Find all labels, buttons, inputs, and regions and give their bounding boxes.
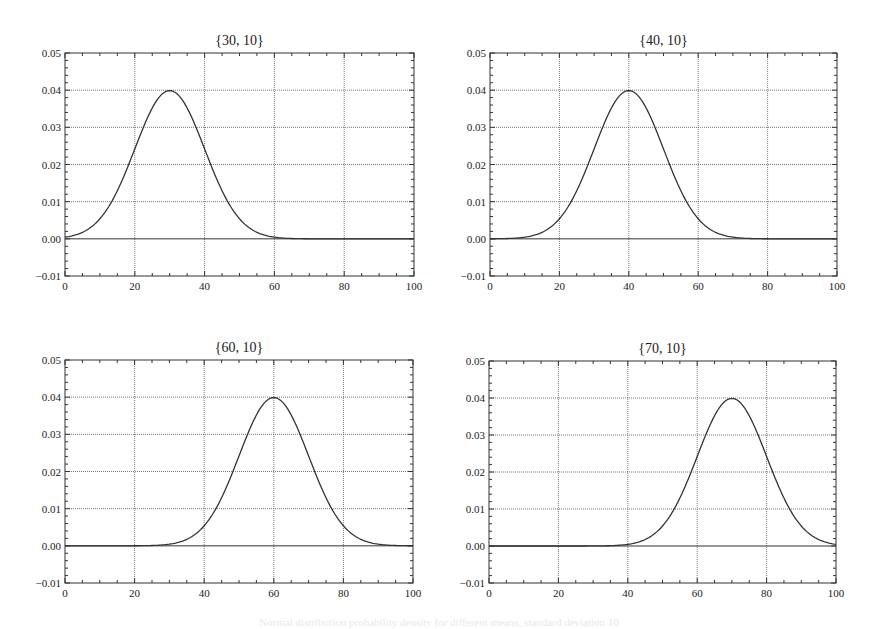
svg-text:100: 100	[828, 587, 845, 599]
chart-panel-3: {60, 10}020406080100−0.010.000.010.020.0…	[36, 340, 422, 599]
svg-text:20: 20	[554, 280, 566, 292]
y-tick-labels: −0.010.000.010.020.030.040.05	[36, 354, 62, 589]
svg-text:−0.01: −0.01	[460, 577, 485, 589]
y-tick-labels: −0.010.000.010.020.030.040.05	[461, 47, 487, 282]
svg-text:40: 40	[199, 280, 211, 292]
svg-text:0.04: 0.04	[42, 84, 62, 96]
svg-text:0.01: 0.01	[42, 503, 61, 515]
figure-canvas: {30, 10}020406080100−0.010.000.010.020.0…	[0, 0, 878, 629]
gridlines	[489, 361, 836, 583]
x-tick-labels: 020406080100	[486, 587, 845, 599]
svg-text:0: 0	[62, 587, 68, 599]
svg-text:40: 40	[199, 587, 211, 599]
svg-text:40: 40	[622, 587, 634, 599]
svg-text:0: 0	[486, 587, 492, 599]
x-tick-labels: 020406080100	[487, 280, 846, 292]
figure-caption: Normal distribution probability density …	[0, 616, 878, 628]
gridlines	[490, 53, 837, 276]
svg-text:0: 0	[487, 280, 493, 292]
chart-panel-2: {40, 10}020406080100−0.010.000.010.020.0…	[461, 33, 846, 292]
chart-title: {60, 10}	[215, 340, 263, 355]
svg-text:0.00: 0.00	[42, 233, 62, 245]
y-tick-labels: −0.010.000.010.020.030.040.05	[36, 47, 62, 282]
svg-text:0.03: 0.03	[42, 428, 62, 440]
gridlines	[65, 53, 414, 276]
y-tick-labels: −0.010.000.010.020.030.040.05	[460, 355, 486, 589]
svg-text:80: 80	[339, 280, 351, 292]
svg-text:0.03: 0.03	[467, 121, 487, 133]
svg-text:0.02: 0.02	[467, 159, 486, 171]
svg-text:0.01: 0.01	[466, 503, 485, 515]
x-tick-labels: 020406080100	[62, 587, 422, 599]
svg-text:0.02: 0.02	[466, 466, 485, 478]
svg-text:0.02: 0.02	[42, 466, 61, 478]
gridlines	[65, 360, 413, 583]
svg-text:0.00: 0.00	[466, 540, 486, 552]
svg-text:0.04: 0.04	[42, 391, 62, 403]
svg-text:0.01: 0.01	[467, 196, 486, 208]
svg-text:60: 60	[693, 280, 705, 292]
svg-text:60: 60	[692, 587, 704, 599]
svg-text:0.05: 0.05	[42, 47, 62, 59]
chart-panel-4: {70, 10}020406080100−0.010.000.010.020.0…	[460, 341, 845, 599]
svg-text:0.05: 0.05	[42, 354, 62, 366]
svg-text:−0.01: −0.01	[461, 270, 486, 282]
svg-text:0.04: 0.04	[467, 84, 487, 96]
svg-text:100: 100	[405, 587, 422, 599]
chart-title: {30, 10}	[215, 33, 263, 48]
chart-title: {70, 10}	[638, 341, 686, 356]
svg-text:0.05: 0.05	[466, 355, 486, 367]
svg-text:80: 80	[338, 587, 350, 599]
x-tick-labels: 020406080100	[62, 280, 423, 292]
svg-text:20: 20	[129, 280, 141, 292]
svg-text:0.03: 0.03	[466, 429, 486, 441]
svg-text:−0.01: −0.01	[36, 577, 61, 589]
svg-text:0.00: 0.00	[42, 540, 62, 552]
chart-title: {40, 10}	[639, 33, 687, 48]
svg-text:40: 40	[623, 280, 635, 292]
chart-panel-1: {30, 10}020406080100−0.010.000.010.020.0…	[36, 33, 423, 292]
svg-text:80: 80	[761, 587, 773, 599]
svg-text:0: 0	[62, 280, 68, 292]
svg-text:0.01: 0.01	[42, 196, 61, 208]
svg-text:60: 60	[269, 280, 281, 292]
svg-text:60: 60	[268, 587, 280, 599]
svg-text:0.02: 0.02	[42, 159, 61, 171]
svg-text:80: 80	[762, 280, 774, 292]
svg-text:0.05: 0.05	[467, 47, 487, 59]
svg-text:0.04: 0.04	[466, 392, 486, 404]
svg-text:0.00: 0.00	[467, 233, 487, 245]
svg-text:−0.01: −0.01	[36, 270, 61, 282]
svg-text:100: 100	[829, 280, 846, 292]
svg-text:0.03: 0.03	[42, 121, 62, 133]
svg-text:20: 20	[553, 587, 565, 599]
svg-text:100: 100	[406, 280, 423, 292]
svg-text:20: 20	[129, 587, 141, 599]
